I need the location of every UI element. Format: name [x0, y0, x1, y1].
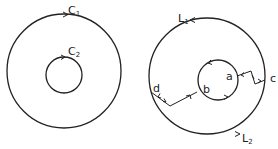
outer-contour-l — [149, 18, 265, 134]
outer-contour-c1 — [7, 14, 121, 128]
arrow-cut-ac-2-icon — [258, 79, 261, 83]
contour-diagram: C1 C2 L1 L2 — [0, 0, 278, 149]
left-figure: C1 C2 — [7, 4, 121, 128]
label-c2: C2 — [68, 45, 80, 59]
label-point-b: b — [203, 83, 210, 96]
right-figure: L1 L2 a b c d — [149, 12, 276, 146]
label-point-c: c — [270, 72, 276, 85]
arrow-inner-bottom-icon — [224, 95, 228, 100]
arrow-cut-db-2-icon — [163, 99, 166, 103]
label-point-d: d — [153, 82, 160, 95]
diagram-svg: C1 C2 L1 L2 — [0, 0, 278, 149]
label-point-a: a — [226, 70, 233, 83]
cut-a-c — [237, 71, 265, 84]
arrow-l2-icon — [235, 132, 240, 137]
inner-contour-c2 — [46, 57, 82, 93]
label-l2: L2 — [242, 132, 253, 146]
label-l1: L1 — [178, 12, 189, 26]
label-c1: C1 — [68, 4, 80, 18]
